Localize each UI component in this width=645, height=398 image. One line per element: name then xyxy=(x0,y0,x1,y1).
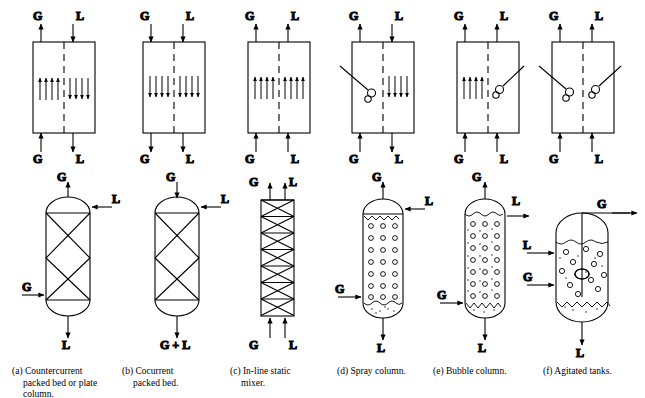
label-liquid: L xyxy=(76,152,84,166)
label-liquid: L xyxy=(523,238,531,252)
label-liquid: L xyxy=(186,152,194,166)
label-gas: G xyxy=(349,9,358,23)
label-gas: G xyxy=(549,152,558,166)
column-a-countercurrent-packed xyxy=(22,182,112,338)
top-box-e-bubble xyxy=(457,24,524,152)
caption-d: (d) Spray column. xyxy=(337,366,437,378)
label-gas: G xyxy=(523,270,532,284)
label-gas: G xyxy=(372,170,381,184)
label-gas: G xyxy=(245,9,254,23)
label-gas-plus-liquid: G + L xyxy=(160,338,190,352)
label-gas: G xyxy=(33,9,42,23)
label-gas: G xyxy=(349,152,358,166)
label-gas: G xyxy=(140,152,149,166)
label-gas: G xyxy=(249,175,258,189)
label-gas: G xyxy=(249,338,258,352)
label-liquid: L xyxy=(112,192,120,206)
label-liquid: L xyxy=(595,9,603,23)
label-gas: G xyxy=(57,170,66,184)
gas-liquid-contactors-figure: G L G L G L G L xyxy=(0,0,645,398)
label-gas: G xyxy=(245,152,254,166)
column-d-spray xyxy=(338,182,425,340)
caption-a: (a) Countercurrent packed bed or plate c… xyxy=(12,366,120,398)
liquid-pool-stipple xyxy=(371,306,394,313)
label-liquid: L xyxy=(576,346,584,360)
top-box-f-agitated xyxy=(539,24,621,152)
label-liquid: L xyxy=(291,152,299,166)
label-liquid: L xyxy=(289,338,297,352)
gas-bubbles xyxy=(471,222,500,299)
label-liquid: L xyxy=(377,341,385,355)
spray-droplets xyxy=(369,224,398,300)
label-gas: G xyxy=(33,152,42,166)
label-gas: G xyxy=(454,9,463,23)
label-gas: G xyxy=(597,197,606,211)
label-gas: G xyxy=(437,288,446,302)
label-gas: G xyxy=(472,170,481,184)
label-liquid: L xyxy=(289,175,297,189)
label-liquid: L xyxy=(478,341,486,355)
column-f-agitated-tank xyxy=(527,213,637,345)
label-liquid: L xyxy=(595,152,603,166)
label-gas: G xyxy=(22,280,31,294)
label-liquid: L xyxy=(291,9,299,23)
label-liquid: L xyxy=(500,152,508,166)
top-box-a-countercurrent xyxy=(33,24,95,152)
caption-e: (e) Bubble column. xyxy=(433,366,533,378)
caption-b: (b) Cocurrent packed bed. xyxy=(122,366,222,389)
caption-f: (f) Agitated tanks. xyxy=(543,366,643,378)
label-gas: G xyxy=(335,282,344,296)
mixer-elements xyxy=(261,200,294,316)
top-box-d-spray xyxy=(340,24,414,152)
column-b-cocurrent-packed xyxy=(155,182,221,338)
label-liquid: L xyxy=(221,192,229,206)
label-liquid: L xyxy=(76,9,84,23)
label-liquid: L xyxy=(512,194,520,208)
label-liquid: L xyxy=(395,9,403,23)
label-gas: G xyxy=(166,170,175,184)
label-liquid: L xyxy=(186,9,194,23)
column-c-static-mixer xyxy=(261,183,294,338)
label-liquid: L xyxy=(62,338,70,352)
top-box-b-cocurrent-down xyxy=(143,24,205,152)
dispersed-bubbles xyxy=(559,246,606,296)
label-gas: G xyxy=(549,9,558,23)
label-liquid: L xyxy=(395,152,403,166)
label-liquid: L xyxy=(500,9,508,23)
caption-c: (c) In-line static mixer. xyxy=(230,366,330,389)
label-gas: G xyxy=(140,9,149,23)
label-gas: G xyxy=(454,152,463,166)
label-liquid: L xyxy=(425,194,433,208)
top-box-c-cocurrent-up xyxy=(248,24,310,152)
